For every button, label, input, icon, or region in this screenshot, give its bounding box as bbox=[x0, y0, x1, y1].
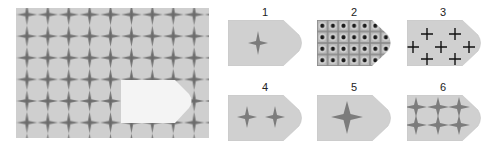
option-label: 6 bbox=[433, 81, 453, 93]
missing-piece-cutout bbox=[121, 80, 192, 123]
star-pattern-image bbox=[16, 8, 209, 138]
option-label: 2 bbox=[344, 6, 364, 18]
option-label: 3 bbox=[433, 6, 453, 18]
option-5[interactable] bbox=[317, 95, 393, 141]
option-4[interactable] bbox=[228, 95, 304, 141]
option-label: 5 bbox=[344, 81, 364, 93]
option-3[interactable] bbox=[407, 20, 483, 66]
option-6[interactable] bbox=[407, 95, 483, 141]
option-1[interactable] bbox=[228, 20, 304, 66]
option-label: 4 bbox=[255, 81, 275, 93]
option-label: 1 bbox=[255, 6, 275, 18]
option-2[interactable] bbox=[317, 20, 393, 66]
main-pattern-panel bbox=[16, 8, 209, 138]
